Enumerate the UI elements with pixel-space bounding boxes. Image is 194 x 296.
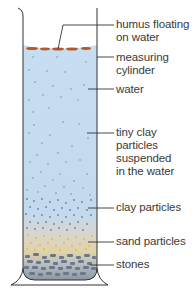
label-cylinder: measuring cylinder (116, 51, 169, 77)
label-water-line1: water (116, 83, 144, 96)
label-humus-line2: on water (116, 31, 189, 44)
label-water: water (116, 83, 144, 96)
label-tiny-clay-line1: tiny clay (116, 126, 174, 139)
label-tiny-clay-line3: suspended (116, 152, 174, 165)
label-clay-line1: clay particles (116, 201, 181, 214)
label-sand-line1: sand particles (116, 235, 186, 248)
label-tiny-clay: tiny clay particles suspended in the wat… (116, 126, 174, 178)
label-cylinder-line1: measuring (116, 51, 169, 64)
label-tiny-clay-line4: in the water (116, 165, 174, 178)
water-column (23, 45, 97, 280)
label-clay: clay particles (116, 201, 181, 214)
label-sand: sand particles (116, 235, 186, 248)
label-humus: humus floating on water (116, 18, 189, 44)
label-humus-line1: humus floating (116, 18, 189, 31)
label-cylinder-line2: cylinder (116, 64, 169, 77)
label-stones: stones (116, 258, 149, 271)
label-stones-line1: stones (116, 258, 149, 271)
label-tiny-clay-line2: particles (116, 139, 174, 152)
